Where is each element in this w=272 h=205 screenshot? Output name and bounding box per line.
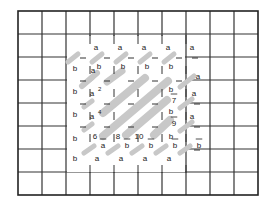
cell-label: b	[173, 141, 178, 150]
cell-label: b	[169, 132, 174, 141]
cell-label: b	[169, 85, 174, 94]
cell-label: b	[169, 62, 174, 71]
cell-label: a	[190, 112, 195, 121]
cell-label: a	[192, 89, 197, 98]
cell-label: a	[166, 43, 171, 52]
cell-label: b	[197, 141, 202, 150]
cell-label: a	[119, 154, 124, 163]
cell-label: a	[101, 141, 106, 150]
cell-label: a	[94, 43, 99, 52]
cell-label: b	[149, 141, 154, 150]
cell-label: a	[190, 43, 195, 52]
cell-label: b	[73, 110, 78, 119]
cell-label: b	[73, 87, 78, 96]
cell-label: b	[73, 134, 78, 143]
grid-diagram: aaaaababbbbababa7baba9b6810babbbbbaaaa24	[0, 0, 272, 205]
cell-label: 7	[172, 96, 177, 105]
cell-label: a	[167, 154, 172, 163]
cell-label: b	[121, 62, 126, 71]
cell-label: a	[91, 66, 96, 75]
cell-label: 8	[116, 132, 121, 141]
cell-label: b	[145, 62, 150, 71]
cell-label: a	[90, 112, 95, 121]
cell-label: b	[97, 62, 102, 71]
cell-label: a	[95, 154, 100, 163]
cell-label: b	[169, 107, 174, 116]
cell-label: a	[90, 89, 95, 98]
cell-label: 9	[172, 119, 177, 128]
cell-label: b	[73, 64, 78, 73]
cell-label: b	[125, 141, 130, 150]
cell-label: a	[143, 154, 148, 163]
cell-label: 10	[135, 132, 144, 141]
cell-label: b	[73, 154, 78, 163]
cell-label: a	[196, 72, 201, 81]
cell-label: a	[142, 43, 147, 52]
cell-label: 6	[93, 132, 98, 141]
cell-label: a	[118, 43, 123, 52]
